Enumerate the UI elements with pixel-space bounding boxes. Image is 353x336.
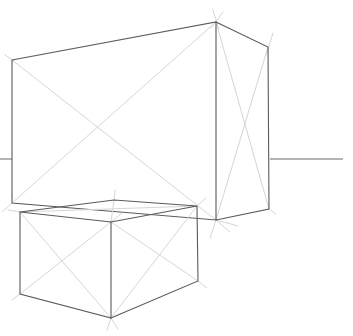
large-box-guides bbox=[2, 10, 276, 238]
perspective-drawing bbox=[0, 0, 353, 336]
large-box bbox=[12, 22, 269, 220]
small-box bbox=[20, 200, 198, 318]
large-box-front-face bbox=[12, 22, 216, 220]
